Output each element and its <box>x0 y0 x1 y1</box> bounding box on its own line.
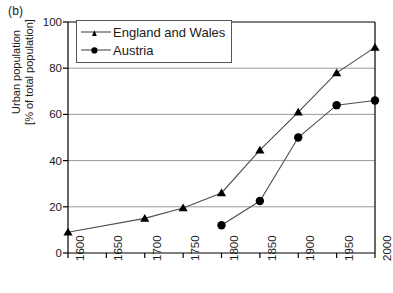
x-tick-label-1600: 1600 <box>74 235 86 261</box>
x-tick-label-1650: 1650 <box>112 235 124 261</box>
x-tick-label-1750: 1750 <box>189 235 201 261</box>
legend-marker-triangle-icon <box>81 25 111 39</box>
legend-label-austria: Austria <box>113 44 153 57</box>
x-tick-label-1850: 1850 <box>266 235 278 261</box>
x-tick-label-1950: 1950 <box>343 235 355 261</box>
legend-item-austria: Austria <box>81 41 225 59</box>
legend: England and Wales Austria <box>76 20 232 63</box>
x-tick-label-1900: 1900 <box>304 235 316 261</box>
x-tick-label-1800: 1800 <box>228 235 240 261</box>
legend-label-england-and-wales: England and Wales <box>113 26 225 39</box>
x-tick-label-1700: 1700 <box>151 235 163 261</box>
x-tick-label-2000: 2000 <box>381 235 393 261</box>
legend-marker-circle-icon <box>81 43 111 57</box>
legend-item-england-and-wales: England and Wales <box>81 23 225 41</box>
